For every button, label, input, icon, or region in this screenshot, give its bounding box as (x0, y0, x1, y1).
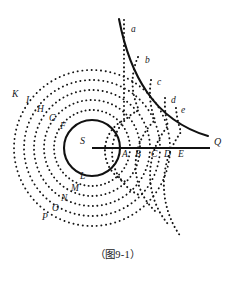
ring-label-G: G (49, 114, 56, 124)
curve-point-label-b: b (145, 56, 150, 66)
ring-label-M: M (71, 184, 79, 194)
ring-label-N: N (61, 194, 67, 204)
ring-label-L: L (80, 172, 85, 182)
ring-label-K: K (12, 90, 18, 100)
curve-point-label-a: a (131, 25, 136, 35)
curve-point-label-c: c (157, 78, 161, 88)
drop-arc-bB (112, 57, 139, 195)
axis-end-label-Q: Q (214, 137, 221, 147)
ring-label-P: P (42, 213, 48, 223)
curve-point-label-e: e (181, 106, 185, 116)
figure-container: S Q a b c d e A B C D E K I H G F L M N … (0, 0, 235, 285)
center-label-S: S (80, 136, 85, 146)
axis-mark-label-C: C (151, 150, 157, 160)
axis-mark-label-D: D (164, 150, 171, 160)
ring-label-I: I (26, 96, 29, 106)
axis-mark-label-E: E (178, 150, 184, 160)
diagram-canvas (0, 0, 235, 285)
dotted-drop-arcs (105, 20, 181, 237)
ring-label-O: O (52, 204, 59, 214)
axis-mark-label-B: B (135, 150, 141, 160)
axis-mark-label-A: A (122, 150, 128, 160)
ring-label-F: F (60, 122, 66, 132)
curve-point-label-d: d (171, 96, 176, 106)
ring-label-H: H (37, 105, 44, 115)
figure-caption: （图9-1） (0, 246, 235, 261)
